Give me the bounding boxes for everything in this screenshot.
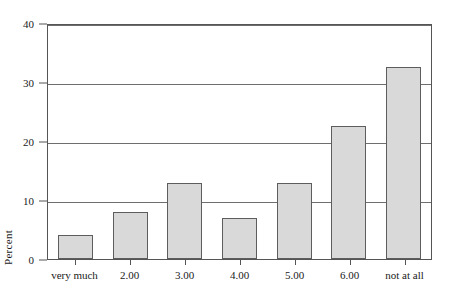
x-tick-label: very much [51,270,98,281]
x-tick-mark [240,260,241,265]
x-axis: very much2.003.004.005.006.00not at all [47,260,432,301]
y-tick-mark [39,83,47,84]
y-axis-title: Percent [3,230,14,265]
x-tick-slot: 5.00 [267,260,322,301]
x-tick-mark [295,260,296,265]
x-tick-slot: 6.00 [322,260,377,301]
bar[interactable] [331,126,366,259]
bar[interactable] [167,183,202,259]
y-tick-label: 10 [23,196,34,207]
x-tick-label: not at all [385,270,424,281]
y-axis: Percent 010203040 [0,0,47,301]
x-tick-slot: 3.00 [157,260,212,301]
bar[interactable] [58,235,93,259]
y-tick-label: 40 [23,19,34,30]
y-tick-label: 0 [29,255,35,266]
bar-slot [212,25,267,259]
y-tick-mark [39,142,47,143]
x-tick-mark [185,260,186,265]
bar-slot [322,25,377,259]
x-tick-mark [405,260,406,265]
x-tick-slot: not at all [377,260,432,301]
x-tick-label: 3.00 [175,270,194,281]
plot-area [47,24,432,260]
bar[interactable] [113,212,148,259]
x-tick-slot: 4.00 [212,260,267,301]
x-tick-label: 2.00 [120,270,139,281]
y-tick-mark [39,260,47,261]
bar-slot [103,25,158,259]
x-tick-label: 6.00 [340,270,359,281]
y-tick-label: 20 [23,137,34,148]
x-tick-mark [350,260,351,265]
x-tick-mark [75,260,76,265]
x-tick-mark [130,260,131,265]
bar[interactable] [222,218,257,259]
bar-chart: Percent 010203040 very much2.003.004.005… [0,0,455,301]
bar-slot [376,25,431,259]
bar-slot [157,25,212,259]
bars-layer [48,25,431,259]
y-tick-mark [39,201,47,202]
y-tick-mark [39,24,47,25]
x-tick-label: 5.00 [285,270,304,281]
x-tick-slot: very much [47,260,102,301]
x-tick-label: 4.00 [230,270,249,281]
bar[interactable] [386,67,421,259]
bar-slot [267,25,322,259]
y-tick-label: 30 [23,78,34,89]
bar-slot [48,25,103,259]
x-tick-slot: 2.00 [102,260,157,301]
bar[interactable] [277,183,312,259]
